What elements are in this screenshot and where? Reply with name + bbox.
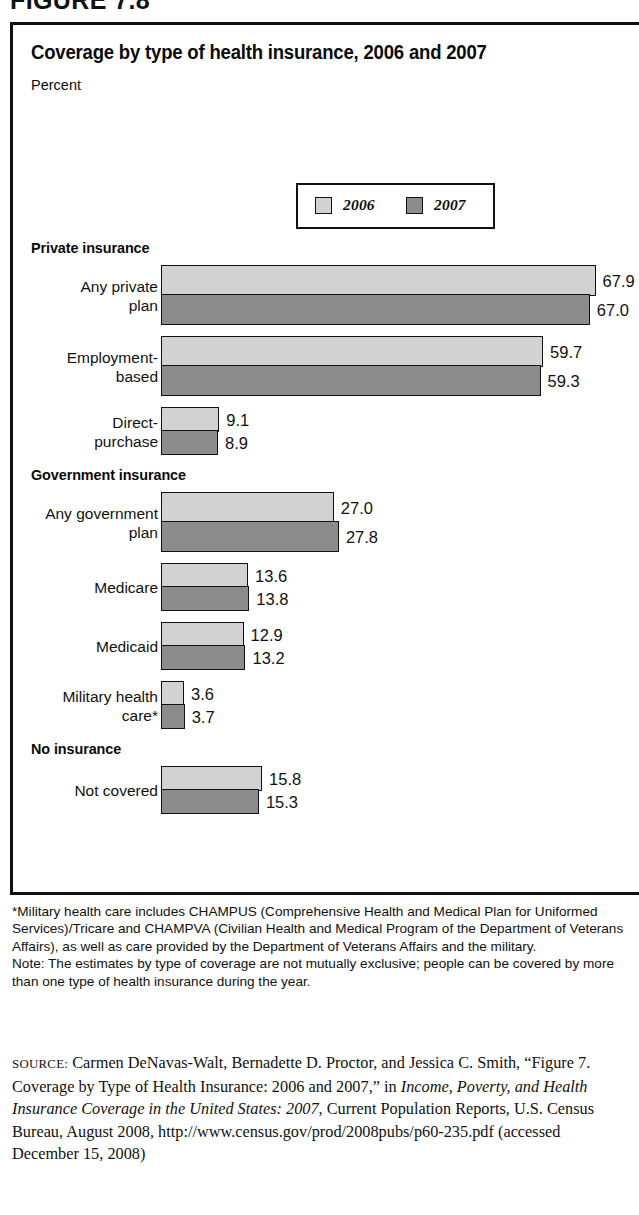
row-category-label: Any private plan: [0, 278, 158, 315]
bar-value-label: 59.7: [550, 342, 582, 361]
row-category-label: Any government plan: [0, 505, 158, 542]
row-bars: 13.613.8: [161, 563, 249, 611]
row-bars: 15.815.3: [161, 766, 262, 814]
row-bars: 59.759.3: [161, 336, 543, 396]
source-citation: SOURCE: Carmen DeNavas-Walt, Bernadette …: [12, 1052, 626, 1166]
bar-value-label: 13.6: [255, 566, 287, 585]
chart-group: No insuranceNot covered15.815.3: [13, 740, 639, 816]
bar-2007: 67.0: [161, 294, 590, 325]
chart-group: Government insuranceAny government plan2…: [13, 466, 639, 731]
row-category-label: Military health care*: [0, 688, 158, 725]
legend-swatch-2006: [315, 197, 332, 214]
chart-group: Private insuranceAny private plan67.967.…: [13, 239, 639, 457]
bar-value-label: 27.0: [341, 498, 373, 517]
bar-value-label: 9.1: [226, 410, 249, 429]
chart-row: Employment- based59.759.3: [13, 336, 639, 398]
bar-value-label: 59.3: [548, 371, 580, 390]
bar-2006: 67.9: [161, 265, 596, 296]
chart-row: Military health care*3.63.7: [13, 681, 639, 731]
row-category-label: Medicaid: [0, 638, 158, 657]
bar-2006: 27.0: [161, 492, 334, 523]
chart-row: Any government plan27.027.8: [13, 492, 639, 554]
bar-value-label: 3.6: [191, 684, 214, 703]
chart-axis-unit-label: Percent: [31, 77, 81, 93]
bar-2006: 59.7: [161, 336, 543, 367]
chart-row: Any private plan67.967.0: [13, 265, 639, 327]
row-bars: 12.913.2: [161, 622, 245, 670]
group-title: Private insurance: [31, 239, 626, 256]
bar-value-label: 67.9: [603, 271, 635, 290]
row-bars: 27.027.8: [161, 492, 339, 552]
row-bars: 3.63.7: [161, 681, 185, 729]
figure-caption: FIGURE 7.8: [10, 0, 150, 10]
legend-label-2007: 2007: [434, 196, 466, 214]
bar-value-label: 15.8: [269, 769, 301, 788]
chart-legend: 2006 2007: [296, 183, 495, 229]
row-category-label: Not covered: [0, 782, 158, 801]
chart-row: Not covered15.815.3: [13, 766, 639, 816]
legend-swatch-2007: [406, 197, 423, 214]
chart-row: Medicare13.613.8: [13, 563, 639, 613]
bar-value-label: 8.9: [225, 433, 248, 452]
source-kicker: SOURCE:: [12, 1057, 68, 1071]
bar-2006: 9.1: [161, 407, 219, 432]
bar-2007: 27.8: [161, 521, 339, 552]
bar-value-label: 13.2: [252, 648, 284, 667]
chart-row: Direct- purchase9.18.9: [13, 407, 639, 457]
bar-value-label: 67.0: [597, 300, 629, 319]
bar-2006: 12.9: [161, 622, 244, 647]
legend-item-2007: 2007: [406, 196, 466, 214]
bar-2007: 13.2: [161, 645, 245, 670]
bar-2007: 3.7: [161, 704, 185, 729]
bar-value-label: 13.8: [256, 589, 288, 608]
bar-2007: 8.9: [161, 430, 218, 455]
group-title: Government insurance: [31, 466, 626, 483]
chart-panel: Coverage by type of health insurance, 20…: [10, 22, 639, 895]
bar-chart-plot-area: Private insuranceAny private plan67.967.…: [13, 239, 639, 825]
bar-2006: 13.6: [161, 563, 248, 588]
bar-value-label: 15.3: [266, 792, 298, 811]
bar-2006: 3.6: [161, 681, 184, 706]
row-bars: 9.18.9: [161, 407, 219, 455]
bar-value-label: 27.8: [346, 527, 378, 546]
bar-2007: 13.8: [161, 586, 249, 611]
row-bars: 67.967.0: [161, 265, 596, 325]
chart-row: Medicaid12.913.2: [13, 622, 639, 672]
bar-2007: 15.3: [161, 789, 259, 814]
legend-label-2006: 2006: [343, 196, 375, 214]
group-title: No insurance: [31, 740, 626, 757]
chart-title: Coverage by type of health insurance, 20…: [31, 41, 487, 64]
bar-value-label: 12.9: [251, 625, 283, 644]
row-category-label: Employment- based: [0, 349, 158, 386]
row-category-label: Direct- purchase: [0, 414, 158, 451]
footnote-military: *Military health care includes CHAMPUS (…: [12, 903, 624, 955]
row-category-label: Medicare: [0, 579, 158, 598]
bar-value-label: 3.7: [192, 707, 215, 726]
bar-2006: 15.8: [161, 766, 262, 791]
chart-notes: *Military health care includes CHAMPUS (…: [12, 903, 624, 990]
legend-item-2006: 2006: [315, 196, 375, 214]
bar-2007: 59.3: [161, 365, 541, 396]
note-mutually-exclusive: Note: The estimates by type of coverage …: [12, 955, 624, 990]
